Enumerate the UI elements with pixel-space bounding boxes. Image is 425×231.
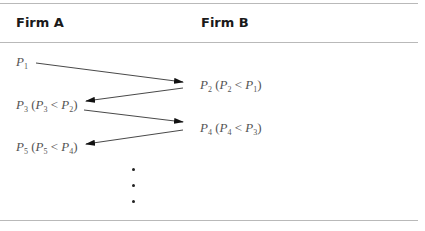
arrow-p3-to-p4 <box>84 110 183 122</box>
arrow-p4-to-p5 <box>86 130 183 144</box>
ellipsis-dot <box>132 168 135 171</box>
ellipsis-dot <box>132 184 135 187</box>
ellipsis-dot <box>132 200 135 203</box>
arrow-p2-to-p3 <box>86 88 183 101</box>
arrow-p1-to-p2 <box>36 63 183 82</box>
bottom-rule <box>0 220 418 221</box>
arrows <box>0 0 425 231</box>
